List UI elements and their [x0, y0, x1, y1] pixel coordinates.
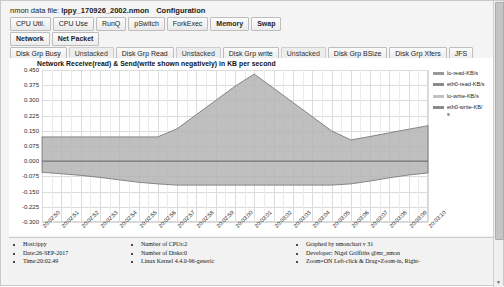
y-tick-label: -0.225 — [13, 204, 39, 210]
tab-cpu-use[interactable]: CPU Use — [53, 17, 94, 31]
info-date: Date:26-SEP-2017 — [23, 249, 127, 258]
y-tick-label: 0.375 — [13, 82, 39, 88]
legend-swatch-icon — [433, 95, 444, 98]
legend-swatch-icon — [433, 72, 444, 75]
y-tick-label: 0.000 — [13, 158, 39, 164]
tab-swap[interactable]: Swap — [251, 17, 281, 31]
legend-swatch-icon — [433, 106, 444, 109]
info-zoom-hint: Zoom=ON Left-click & Drag=Zoom-in, Right… — [306, 257, 496, 266]
legend-label: eth0-​write-​KB/s — [447, 104, 485, 117]
tab-row-2: Network Net Packet — [10, 32, 503, 46]
data-file-line: nmon data file:lppy_170926_2002.nmonConf… — [10, 6, 503, 16]
info-developer: Developer: Nigel Griffiths @mr_nmon — [306, 249, 496, 258]
chart-panel: Network Receive(read) & Send(write shown… — [9, 58, 496, 236]
y-tick-label: -0.150 — [13, 189, 39, 195]
chart-legend: lo-​read-​KB/seth0-​read-​KB/slo-​write-… — [433, 70, 489, 122]
plot-area[interactable]: 0.4500.3750.3000.2250.1500.0750.000-0.07… — [42, 70, 428, 222]
y-tick-label: -0.300 — [13, 219, 39, 225]
tab-net-packet[interactable]: Net Packet — [52, 32, 100, 46]
tab-forkexec[interactable]: ForkExec — [167, 17, 209, 31]
info-footer: Host:ippy Date:26-SEP-2017 Time:20:02.49… — [9, 237, 496, 282]
vertical-scrollbar[interactable]: ▲ ▼ — [493, 1, 503, 287]
legend-item[interactable]: lo-​write-​KB/s — [433, 93, 489, 99]
y-tick-label: 0.300 — [13, 97, 39, 103]
legend-item[interactable]: eth0-​write-​KB/s — [433, 104, 489, 117]
info-cpus: Number of CPUs:2 — [141, 240, 292, 249]
info-col-host: Host:ippy Date:26-SEP-2017 Time:20:02.49 — [9, 238, 127, 282]
series-layer — [42, 70, 428, 222]
info-host: Host:ippy — [23, 240, 127, 249]
legend-item[interactable]: eth0-​read-​KB/s — [433, 81, 489, 87]
scroll-down-icon[interactable]: ▼ — [495, 279, 502, 286]
tab-memory[interactable]: Memory — [210, 17, 249, 31]
info-disks: Number of Disks:0 — [141, 249, 292, 258]
tab-row-1: CPU Util. CPU Use RunQ pSwitch ForkExec … — [10, 17, 503, 31]
configuration-link[interactable]: Configuration — [156, 6, 205, 15]
y-tick-label: 0.075 — [13, 143, 39, 149]
info-col-credits: Graphed by nmonchart v 31 Developer: Nig… — [292, 238, 496, 282]
tab-pswitch[interactable]: pSwitch — [128, 17, 165, 31]
tab-cpu-util[interactable]: CPU Util. — [10, 17, 51, 31]
series-area-1 — [42, 74, 428, 161]
data-file-name: lppy_170926_2002.nmon — [61, 6, 149, 15]
info-graphed-by[interactable]: Graphed by nmonchart v 31 — [306, 240, 496, 249]
y-tick-label: 0.225 — [13, 113, 39, 119]
tab-network[interactable]: Network — [10, 32, 50, 46]
info-kernel: Linux Kernel 4.4.0-96-generic — [141, 257, 292, 266]
chart-title: Network Receive(read) & Send(write shown… — [37, 60, 276, 67]
legend-label: eth0-​read-​KB/s — [447, 81, 485, 87]
tab-runq[interactable]: RunQ — [96, 17, 126, 31]
header: nmon data file:lppy_170926_2002.nmonConf… — [1, 1, 503, 61]
x-tick-label: 20:03:10 — [427, 209, 447, 229]
legend-swatch-icon — [433, 83, 444, 86]
info-time: Time:20:02.49 — [23, 257, 127, 266]
scrollbar-thumb[interactable] — [495, 2, 504, 240]
data-file-label: nmon data file: — [10, 6, 59, 15]
legend-label: lo-​read-​KB/s — [447, 70, 485, 76]
y-tick-label: 0.150 — [13, 128, 39, 134]
info-col-system: Number of CPUs:2 Number of Disks:0 Linux… — [127, 238, 292, 282]
legend-item[interactable]: lo-​read-​KB/s — [433, 70, 489, 76]
y-tick-label: 0.450 — [13, 67, 39, 73]
y-tick-label: -0.075 — [13, 173, 39, 179]
legend-label: lo-​write-​KB/s — [447, 93, 485, 99]
series-area-3 — [42, 161, 428, 185]
